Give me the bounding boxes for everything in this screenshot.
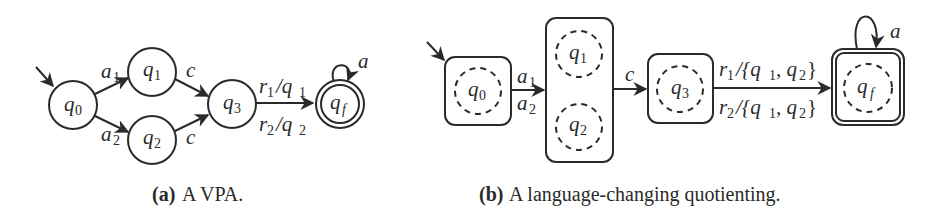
svg-text:2: 2 <box>299 123 306 138</box>
svg-text:1: 1 <box>267 85 274 100</box>
svg-text:a: a <box>517 91 528 115</box>
label-c-b: c <box>625 62 635 86</box>
svg-text:a: a <box>101 59 112 83</box>
label-c-top: c <box>186 58 196 82</box>
svg-text:q: q <box>143 57 154 81</box>
state-q2: q 2 <box>128 116 176 164</box>
label-a2-b: a 2 <box>517 91 536 117</box>
svg-text:q: q <box>857 74 868 98</box>
svg-text:(a): (a) <box>152 183 175 206</box>
label-r2-q2: r 2 /q 2 <box>259 112 306 138</box>
svg-text:q: q <box>143 125 154 149</box>
label-c-bottom: c <box>186 125 196 149</box>
svg-text:/{q: /{q <box>735 57 761 81</box>
svg-text:1: 1 <box>154 68 161 83</box>
svg-text:q: q <box>671 75 682 99</box>
svg-text:a: a <box>101 122 112 146</box>
svg-text:}: } <box>807 57 817 81</box>
svg-text:/q: /q <box>275 74 293 98</box>
label-r1-set: r 1 /{q 1 , q 2 } <box>719 57 817 83</box>
svg-text:2: 2 <box>799 106 806 121</box>
svg-text:1: 1 <box>529 75 536 90</box>
caption-b: (b) A language-changing quotienting. <box>479 183 781 206</box>
class-box-qf-accepting: q f <box>832 49 904 125</box>
state-q1: q 1 <box>128 48 176 96</box>
state-q0: q 0 <box>49 81 97 129</box>
svg-text:1: 1 <box>769 68 776 83</box>
svg-text:3: 3 <box>682 86 689 101</box>
svg-text:3: 3 <box>234 101 241 116</box>
label-r2-set: r 2 /{q 1 , q 2 } <box>719 95 817 121</box>
label-a-loop-b: a <box>890 19 901 43</box>
figure-canvas: q 0 q 1 q 2 q 3 q f a 1 a <box>0 0 940 222</box>
svg-text:1: 1 <box>580 51 587 66</box>
svg-text:/q: /q <box>275 112 293 136</box>
svg-text:2: 2 <box>580 123 587 138</box>
svg-text:0: 0 <box>75 103 82 118</box>
initial-arrow-q0 <box>36 67 53 86</box>
svg-text:0: 0 <box>479 88 486 103</box>
svg-text:q: q <box>223 90 234 114</box>
svg-text:, q: , q <box>776 57 798 81</box>
label-r1-q1: r 1 /q 1 <box>259 74 306 100</box>
svg-text:2: 2 <box>113 133 120 148</box>
svg-text:1: 1 <box>727 68 734 83</box>
edge-q0-q1 <box>95 78 128 94</box>
svg-text:q: q <box>330 90 341 114</box>
label-a1: a 1 <box>101 59 120 85</box>
svg-text:A language-changing quotientin: A language-changing quotienting. <box>509 183 781 206</box>
class-box-q3: q 3 <box>648 54 713 123</box>
figure-a-vpa: q 0 q 1 q 2 q 3 q f a 1 a <box>36 48 369 206</box>
class-box-q0: q 0 <box>445 57 511 125</box>
svg-text:2: 2 <box>799 68 806 83</box>
svg-text:2: 2 <box>727 106 734 121</box>
svg-text:q: q <box>569 40 580 64</box>
svg-text:2: 2 <box>529 102 536 117</box>
state-qf-accepting: q f <box>316 80 364 128</box>
svg-text:(b): (b) <box>479 183 503 206</box>
svg-text:q: q <box>569 112 580 136</box>
label-a-loop: a <box>358 49 369 73</box>
svg-text:q: q <box>468 77 479 101</box>
svg-text:1: 1 <box>299 85 306 100</box>
class-box-q1-q2: q 1 q 2 <box>546 18 613 162</box>
svg-text:2: 2 <box>267 123 274 138</box>
svg-text:A VPA.: A VPA. <box>182 183 243 205</box>
edge-cf-loop <box>855 16 876 49</box>
svg-text:q: q <box>64 92 75 116</box>
svg-text:/{q: /{q <box>735 95 761 119</box>
figure-b-quotient: q 0 q 1 q 2 q 3 q f <box>427 16 904 206</box>
svg-text:1: 1 <box>769 106 776 121</box>
svg-text:1: 1 <box>113 70 120 85</box>
edge-q0-q2 <box>95 116 128 132</box>
svg-text:2: 2 <box>154 136 161 151</box>
svg-text:}: } <box>807 95 817 119</box>
state-q3: q 3 <box>208 80 256 128</box>
caption-a: (a) A VPA. <box>152 183 243 206</box>
label-a1-b: a 1 <box>517 64 536 90</box>
initial-arrow-c0 <box>427 42 444 60</box>
svg-text:, q: , q <box>776 95 798 119</box>
svg-text:a: a <box>517 64 528 88</box>
